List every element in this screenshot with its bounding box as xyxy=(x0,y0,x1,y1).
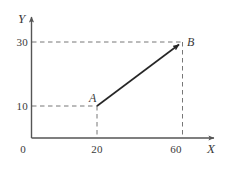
segment-ab xyxy=(97,45,179,107)
diagram-canvas xyxy=(0,0,231,169)
y-tick-label-10: 10 xyxy=(8,101,28,112)
segment-ab-line xyxy=(97,45,179,107)
point-label-b: B xyxy=(187,36,194,48)
x-tick-label-20: 20 xyxy=(91,144,102,155)
origin-tick-label: 0 xyxy=(20,144,26,155)
x-axis-label: X xyxy=(207,142,215,155)
y-tick-label-30: 30 xyxy=(8,37,28,48)
guide-lines xyxy=(32,42,183,138)
y-axis-label: Y xyxy=(18,12,25,25)
x-tick-label-60: 60 xyxy=(170,144,181,155)
point-label-a: A xyxy=(89,92,96,104)
coordinate-diagram: Y X 0 20 60 10 30 A B xyxy=(0,0,231,169)
